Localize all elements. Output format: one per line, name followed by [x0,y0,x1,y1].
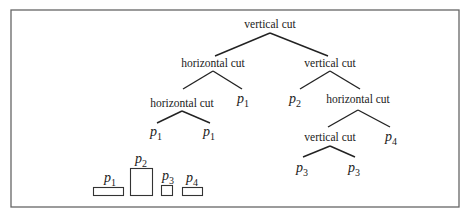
edge-left1-left [183,71,213,89]
legend-p4-label: p4 [185,170,198,188]
edge-right1-right [330,71,360,89]
right3-node-label: vertical cut [304,131,356,143]
right1-leaf-p2: p2 [288,91,301,109]
right3-leaf-p3-a: p3 [295,160,308,178]
edge-root-right [270,33,328,56]
edge-right1-left [300,71,330,89]
legend-p3-rect [162,186,173,196]
legend-p2-rect [131,169,153,196]
legend-p3-label: p3 [161,168,174,186]
left2-node-label: horizontal cut [150,97,214,109]
edge-right3-right [330,146,355,157]
diagram-frame [11,10,459,207]
edge-right2-left [328,110,358,127]
edge-left1-right [213,71,242,89]
left2-leaf-p1-b: p1 [202,124,215,142]
right1-node-label: vertical cut [304,57,356,69]
right3-leaf-p3-b: p3 [347,160,360,178]
left1-node-label: horizontal cut [181,57,245,69]
left2-leaf-p1-a: p1 [149,124,162,142]
edge-right2-right [358,110,390,127]
edge-right3-left [303,146,330,157]
slicing-tree-diagram: vertical cut horizontal cut p1 horizonta… [0,0,469,219]
legend-p1-label: p1 [103,170,116,188]
right2-node-label: horizontal cut [326,93,390,105]
root-node-label: vertical cut [244,18,296,30]
left1-leaf-p1: p1 [236,91,249,109]
edge-left2-left [157,111,182,123]
right2-leaf-p4: p4 [384,129,397,147]
edge-root-left [215,33,270,56]
edge-left2-right [182,111,210,123]
legend-p2-label: p2 [134,151,147,169]
legend-p1-rect [94,188,124,196]
legend-p4-rect [183,188,203,196]
